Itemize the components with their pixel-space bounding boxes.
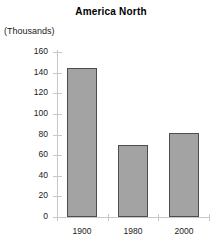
y-tick-label: 20 — [2, 191, 48, 200]
y-tick-label: 160 — [2, 47, 48, 56]
x-tick-label-1980: 1980 — [107, 226, 159, 236]
chart-title: America North — [0, 6, 222, 18]
bar-chart: America North (Thousands) 02040608010012… — [0, 0, 222, 252]
x-axis-line — [57, 217, 209, 218]
x-tick-label-2000: 2000 — [158, 226, 210, 236]
y-tick-label: 120 — [2, 88, 48, 97]
plot-area — [57, 52, 209, 217]
y-axis-units-label: (Thousands) — [4, 26, 55, 37]
y-tick-label: 100 — [2, 109, 48, 118]
y-tick-label: 80 — [2, 130, 48, 139]
y-tick-label: 60 — [2, 150, 48, 159]
y-tick-label: 140 — [2, 68, 48, 77]
x-tick-label-1900: 1900 — [56, 226, 108, 236]
bar-1980 — [118, 145, 148, 217]
y-tick-label: 40 — [2, 171, 48, 180]
bar-1900 — [67, 68, 97, 217]
x-tick-mark — [209, 214, 210, 221]
y-tick-label: 0 — [2, 212, 48, 221]
bar-2000 — [169, 133, 199, 217]
